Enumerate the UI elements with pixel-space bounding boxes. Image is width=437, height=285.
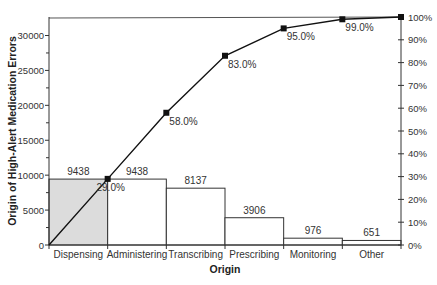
bar-value-label: 3906 — [243, 205, 266, 216]
y2-tick-label: 10% — [408, 217, 428, 228]
y2-tick-label: 70% — [408, 80, 428, 91]
x-tick-label: Transcribing — [168, 249, 223, 260]
y2-tick-label: 100% — [408, 12, 433, 23]
y2-tick-label: 40% — [408, 148, 428, 159]
cumulative-label: 83.0% — [228, 59, 256, 70]
cumulative-label: 58.0% — [169, 116, 197, 127]
x-tick-label: Prescribing — [229, 249, 279, 260]
y-tick-label: 15000 — [18, 135, 44, 146]
bar-other — [342, 240, 401, 245]
bar-prescribing — [225, 218, 284, 245]
y-tick-label: 20000 — [18, 100, 44, 111]
bar-value-label: 9438 — [126, 166, 149, 177]
pareto-chart: 9438Dispensing9438Administering8137Trans… — [0, 0, 437, 285]
y2-tick-label: 0% — [408, 240, 422, 251]
y-tick-label: 0 — [39, 240, 44, 251]
y-tick-label: 10000 — [18, 170, 44, 181]
y-tick-label: 5000 — [23, 205, 44, 216]
plot-top-border — [49, 17, 401, 18]
y-tick-label: 25000 — [18, 65, 44, 76]
bar-value-label: 651 — [363, 227, 380, 238]
y2-tick-label: 30% — [408, 171, 428, 182]
y2-tick-label: 50% — [408, 126, 428, 137]
bar-value-label: 9438 — [67, 166, 90, 177]
bar-value-label: 976 — [305, 225, 322, 236]
y2-tick-label: 80% — [408, 57, 428, 68]
y2-tick-label: 90% — [408, 34, 428, 45]
cumulative-label: 29.0% — [96, 182, 124, 193]
cumulative-label: 95.0% — [287, 31, 315, 42]
x-tick-label: Dispensing — [54, 249, 103, 260]
chart-canvas: 9438Dispensing9438Administering8137Trans… — [0, 0, 437, 285]
y-tick-label: 30000 — [18, 30, 44, 41]
y2-tick-label: 20% — [408, 194, 428, 205]
y2-tick-label: 60% — [408, 103, 428, 114]
x-axis-title: Origin — [210, 263, 241, 275]
bar-monitoring — [284, 238, 343, 245]
bar-transcribing — [166, 188, 225, 245]
cumulative-label: 99.0% — [345, 22, 373, 33]
y-axis-title: Origin of High-Alert Medication Errors — [6, 36, 18, 226]
x-tick-label: Monitoring — [290, 249, 337, 260]
x-tick-label: Administering — [107, 249, 168, 260]
cumulative-marker — [398, 14, 404, 20]
x-tick-label: Other — [359, 249, 385, 260]
bar-value-label: 8137 — [185, 175, 208, 186]
